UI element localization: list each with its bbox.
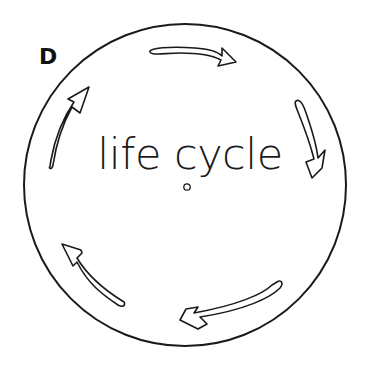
cedilla-dot-icon <box>184 184 190 190</box>
arrow-up-left-icon <box>62 244 125 306</box>
arrow-left-icon <box>180 281 282 329</box>
center-title: life cycle <box>95 133 285 176</box>
arrow-up-icon <box>49 87 89 169</box>
arrow-down-icon <box>295 100 325 178</box>
life-cycle-diagram <box>0 0 366 365</box>
arrow-top-right-icon <box>150 47 236 66</box>
